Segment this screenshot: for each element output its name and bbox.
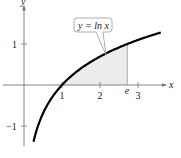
ln-curve xyxy=(34,32,161,141)
function-label: y = ln x xyxy=(77,20,109,31)
svg-text:1: 1 xyxy=(60,90,65,101)
shaded-area xyxy=(62,44,127,85)
ln-graph: x y 12e3 1−1 y = ln x xyxy=(0,0,181,158)
svg-text:e: e xyxy=(125,85,130,96)
svg-text:1: 1 xyxy=(12,39,17,50)
y-axis-label: y xyxy=(20,0,26,7)
svg-text:3: 3 xyxy=(136,90,141,101)
function-callout: y = ln x xyxy=(74,18,112,55)
x-axis-label: x xyxy=(168,79,174,90)
svg-text:−1: −1 xyxy=(6,121,17,132)
svg-text:2: 2 xyxy=(98,90,103,101)
